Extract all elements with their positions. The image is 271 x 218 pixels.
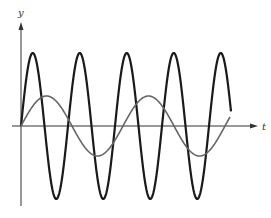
t-axis-label: t	[262, 121, 267, 132]
t-axis-arrow-icon	[250, 124, 258, 129]
y-axis-label: y	[17, 7, 24, 18]
wave-diagram: y t	[0, 0, 271, 218]
y-axis-arrow-icon	[19, 22, 24, 30]
